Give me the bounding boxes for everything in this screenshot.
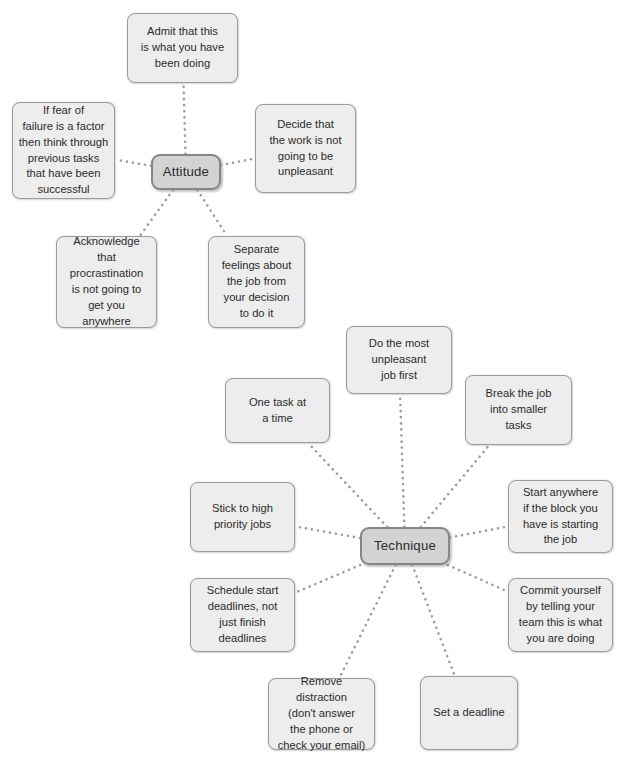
node-label: Stick to high priority jobs <box>212 501 273 533</box>
branch-node-remove-distraction[interactable]: Remove distraction (don't answer the pho… <box>268 678 375 750</box>
node-label: Schedule start deadlines, not just finis… <box>207 583 279 647</box>
connector-technique-to-one-task-at-a-time <box>308 443 387 527</box>
node-label: Start anywhere if the block you have is … <box>523 485 598 549</box>
branch-node-set-a-deadline[interactable]: Set a deadline <box>420 676 518 750</box>
center-node-attitude[interactable]: Attitude <box>151 154 221 190</box>
branch-node-most-unpleasant-first[interactable]: Do the most unpleasant job first <box>346 326 452 394</box>
branch-node-start-anywhere[interactable]: Start anywhere if the block you have is … <box>508 480 613 553</box>
center-node-technique[interactable]: Technique <box>360 527 450 565</box>
connector-technique-to-set-a-deadline <box>412 565 455 676</box>
node-label: Commit yourself by telling your team thi… <box>519 583 602 647</box>
node-label: Separate feelings about the job from you… <box>222 242 292 322</box>
node-label: Remove distraction (don't answer the pho… <box>274 674 369 754</box>
connector-technique-to-commit-yourself <box>448 565 508 592</box>
connector-attitude-to-admit <box>183 83 185 154</box>
branch-node-stick-to-high-priority[interactable]: Stick to high priority jobs <box>190 482 295 552</box>
connector-technique-to-break-into-smaller-tasks <box>421 445 489 527</box>
connector-attitude-to-separate-feelings <box>198 190 227 236</box>
node-label: Admit that this is what you have been do… <box>141 24 224 72</box>
node-label: Attitude <box>163 163 209 182</box>
node-label: One task at a time <box>249 395 306 427</box>
node-label: Technique <box>374 537 436 556</box>
branch-node-schedule-start-deadlines[interactable]: Schedule start deadlines, not just finis… <box>190 578 295 652</box>
node-label: Acknowledge that procrastination is not … <box>62 234 151 329</box>
connector-attitude-to-decide-work-not-unpleasant <box>221 158 255 165</box>
node-label: Set a deadline <box>433 705 505 721</box>
branch-node-separate-feelings[interactable]: Separate feelings about the job from you… <box>208 236 305 328</box>
connector-attitude-to-acknowledge-procrastination <box>140 190 173 236</box>
branch-node-decide-work-not-unpleasant[interactable]: Decide that the work is not going to be … <box>255 104 356 193</box>
connector-technique-to-stick-to-high-priority <box>295 526 360 538</box>
branch-node-admit[interactable]: Admit that this is what you have been do… <box>127 13 238 83</box>
connector-technique-to-most-unpleasant-first <box>400 394 404 527</box>
connector-technique-to-schedule-start-deadlines <box>295 565 360 593</box>
connector-attitude-to-fear-of-failure <box>115 160 151 166</box>
connector-technique-to-start-anywhere <box>450 526 508 537</box>
branch-node-commit-yourself[interactable]: Commit yourself by telling your team thi… <box>508 578 613 652</box>
node-label: Decide that the work is not going to be … <box>269 117 341 181</box>
node-label: Do the most unpleasant job first <box>369 336 429 384</box>
node-label: If fear of failure is a factor then thin… <box>19 103 109 198</box>
mind-map-canvas: AttitudeAdmit that this is what you have… <box>0 0 622 758</box>
branch-node-break-into-smaller-tasks[interactable]: Break the job into smaller tasks <box>465 375 572 445</box>
branch-node-acknowledge-procrastination[interactable]: Acknowledge that procrastination is not … <box>56 236 157 328</box>
branch-node-fear-of-failure[interactable]: If fear of failure is a factor then thin… <box>12 102 115 199</box>
node-label: Break the job into smaller tasks <box>486 386 552 434</box>
connector-technique-to-remove-distraction <box>339 565 395 678</box>
branch-node-one-task-at-a-time[interactable]: One task at a time <box>225 378 330 443</box>
